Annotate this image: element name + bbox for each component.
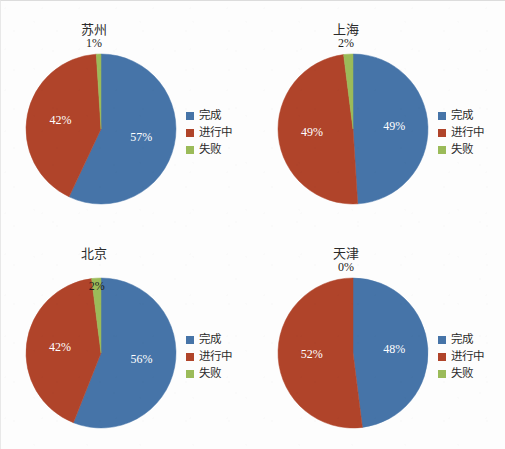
legend-item-in-progress[interactable]: 进行中 <box>438 124 504 141</box>
legend-swatch-in-progress <box>438 129 446 137</box>
pie-graphic: 57%42% <box>25 53 177 205</box>
legend-swatch-failed <box>438 146 446 154</box>
legend-item-failed[interactable]: 失败 <box>186 141 252 158</box>
sliver-percent-label: 2% <box>89 279 105 293</box>
slice-percent-label: 52% <box>301 347 323 361</box>
pie-graphic: 49%49% <box>277 53 429 205</box>
legend-label-complete: 完成 <box>199 334 221 346</box>
legend-label-complete: 完成 <box>199 110 221 122</box>
pie-chart-panel-beijing: 北京 56%42%2% 完成 进行中 失败 <box>1 225 253 449</box>
legend-swatch-in-progress <box>438 353 446 361</box>
slice-percent-label: 56% <box>131 352 153 366</box>
legend-label-complete: 完成 <box>451 110 473 122</box>
legend-label-failed: 失败 <box>199 144 221 156</box>
slice-percent-label: 42% <box>49 340 71 354</box>
legend-swatch-failed <box>438 370 446 378</box>
legend-swatch-failed <box>186 146 194 154</box>
pie-chart-panel-shanghai: 上海 2% 49%49% 完成 进行中 失败 <box>253 1 505 225</box>
legend-item-complete[interactable]: 完成 <box>438 331 504 348</box>
legend-swatch-in-progress <box>186 129 194 137</box>
chart-legend: 完成 进行中 失败 <box>438 107 504 158</box>
pie-chart-panel-tianjin: 天津 0% 48%52% 完成 进行中 失败 <box>253 225 505 449</box>
pie-svg: 56%42%2% <box>25 277 177 429</box>
legend-label-in-progress: 进行中 <box>451 127 484 139</box>
legend-label-in-progress: 进行中 <box>199 127 232 139</box>
legend-label-failed: 失败 <box>199 368 221 380</box>
legend-item-in-progress[interactable]: 进行中 <box>186 124 252 141</box>
legend-label-in-progress: 进行中 <box>199 351 232 363</box>
chart-page: 苏州 1% 57%42% 完成 进行中 失败 <box>0 0 505 449</box>
slice-percent-label: 57% <box>130 130 152 144</box>
legend-swatch-failed <box>186 370 194 378</box>
legend-swatch-complete <box>186 112 194 120</box>
legend-item-failed[interactable]: 失败 <box>186 365 252 382</box>
pie-svg: 48%52% <box>277 277 429 429</box>
legend-item-complete[interactable]: 完成 <box>438 107 504 124</box>
top-percent-label: 2% <box>253 36 439 51</box>
slice-percent-label: 49% <box>383 119 405 133</box>
slice-percent-label: 48% <box>383 342 405 356</box>
chart-legend: 完成 进行中 失败 <box>438 331 504 382</box>
chart-title: 北京 <box>1 243 187 262</box>
pie-svg: 57%42% <box>25 53 177 205</box>
pie-svg: 49%49% <box>277 53 429 205</box>
legend-item-in-progress[interactable]: 进行中 <box>186 348 252 365</box>
legend-item-complete[interactable]: 完成 <box>186 107 252 124</box>
slice-percent-label: 49% <box>301 125 323 139</box>
legend-item-failed[interactable]: 失败 <box>438 141 504 158</box>
chart-legend: 完成 进行中 失败 <box>186 107 252 158</box>
pie-chart-panel-suzhou: 苏州 1% 57%42% 完成 进行中 失败 <box>1 1 253 225</box>
top-percent-label: 0% <box>253 260 439 275</box>
legend-label-in-progress: 进行中 <box>451 351 484 363</box>
legend-label-complete: 完成 <box>451 334 473 346</box>
legend-swatch-in-progress <box>186 353 194 361</box>
slice-percent-label: 42% <box>49 113 71 127</box>
legend-swatch-complete <box>186 336 194 344</box>
top-percent-label: 1% <box>1 36 187 51</box>
pie-graphic: 56%42%2% <box>25 277 177 429</box>
legend-item-complete[interactable]: 完成 <box>186 331 252 348</box>
pie-chart-grid: 苏州 1% 57%42% 完成 进行中 失败 <box>1 1 505 449</box>
legend-label-failed: 失败 <box>451 144 473 156</box>
chart-legend: 完成 进行中 失败 <box>186 331 252 382</box>
legend-swatch-complete <box>438 112 446 120</box>
legend-swatch-complete <box>438 336 446 344</box>
legend-item-in-progress[interactable]: 进行中 <box>438 348 504 365</box>
legend-item-failed[interactable]: 失败 <box>438 365 504 382</box>
legend-label-failed: 失败 <box>451 368 473 380</box>
pie-graphic: 48%52% <box>277 277 429 429</box>
